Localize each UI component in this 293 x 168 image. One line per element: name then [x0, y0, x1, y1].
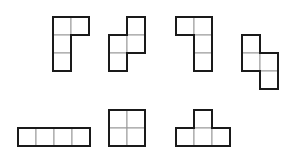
cell: [194, 128, 212, 146]
cell: [176, 128, 194, 146]
cell: [127, 128, 145, 146]
cell: [36, 128, 54, 146]
cell: [260, 71, 278, 89]
cell: [260, 53, 278, 71]
cell: [242, 53, 260, 71]
cell: [242, 35, 260, 53]
cell: [127, 110, 145, 128]
cell: [53, 53, 71, 71]
cell: [18, 128, 36, 146]
cell: [53, 17, 71, 35]
cell: [109, 110, 127, 128]
tetromino-l-top-left: [176, 17, 212, 71]
cell: [194, 17, 212, 35]
cell: [176, 17, 194, 35]
cell: [109, 53, 127, 71]
cell: [109, 35, 127, 53]
tetromino-s-vertical: [109, 17, 145, 71]
tetromino-i-horizontal: [18, 128, 90, 146]
cell: [194, 110, 212, 128]
cell: [71, 17, 89, 35]
cell: [194, 35, 212, 53]
tetromino-t-up: [176, 110, 230, 146]
cell: [127, 35, 145, 53]
cell: [54, 128, 72, 146]
cell: [127, 17, 145, 35]
cell: [53, 35, 71, 53]
cell: [109, 128, 127, 146]
tetromino-p-top-right: [53, 17, 89, 71]
cell: [72, 128, 90, 146]
tetromino-z-vertical: [242, 35, 278, 89]
tetromino-o-square: [109, 110, 145, 146]
tetromino-diagram: [0, 0, 293, 168]
cell: [212, 128, 230, 146]
cell: [194, 53, 212, 71]
